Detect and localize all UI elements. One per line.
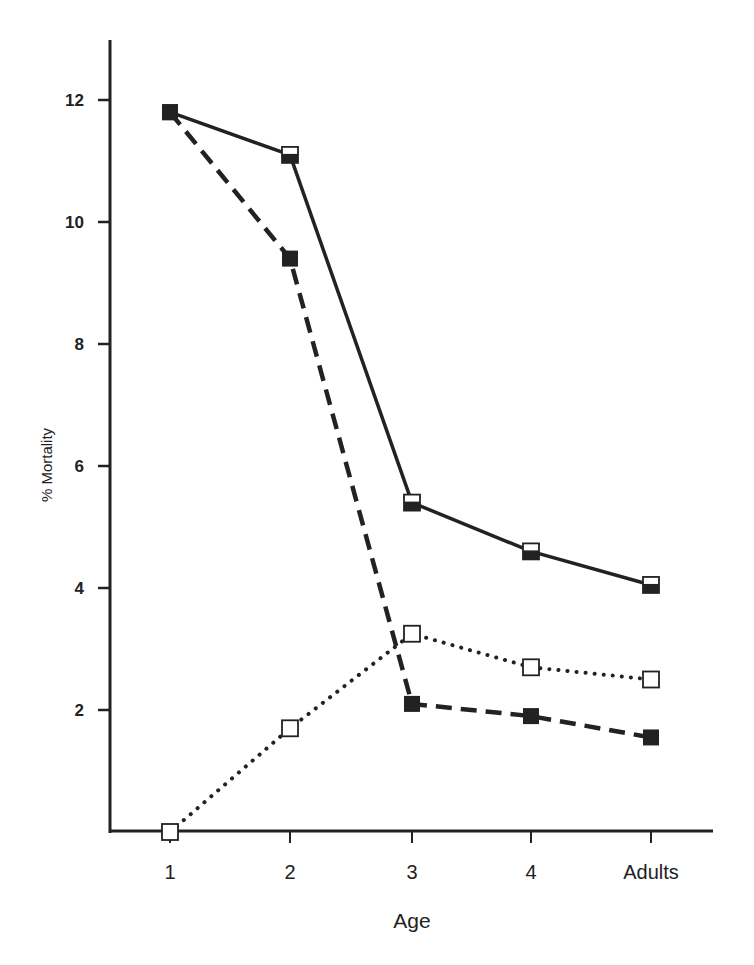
x-tick-label: Adults <box>623 861 679 883</box>
marker-half-fill <box>404 502 420 511</box>
x-tick-label: 4 <box>525 861 536 883</box>
marker-half-fill <box>282 154 298 163</box>
marker-open-square <box>523 659 539 675</box>
y-tick-label: 8 <box>75 335 84 354</box>
y-tick-label: 4 <box>75 579 85 598</box>
marker-open-square <box>404 626 420 642</box>
x-tick-label: 2 <box>284 861 295 883</box>
marker-half-fill <box>523 550 539 559</box>
marker-half-fill <box>643 584 659 593</box>
y-tick-label: 10 <box>65 213 84 232</box>
series-line-solid <box>170 112 651 585</box>
x-tick-label: 1 <box>164 861 175 883</box>
chart-canvas: 246810121234Adults Age % Mortality <box>0 0 754 965</box>
y-axis-title: % Mortality <box>38 427 55 502</box>
marker-open-square <box>282 720 298 736</box>
marker-open-square <box>643 672 659 688</box>
y-tick-label: 2 <box>75 701 84 720</box>
marker-filled-square <box>523 708 539 724</box>
marker-open-square <box>162 824 178 840</box>
axes: 246810121234Adults <box>65 40 713 883</box>
marker-filled-square <box>643 729 659 745</box>
marker-filled-square <box>282 251 298 267</box>
series-layer <box>162 104 659 840</box>
marker-filled-square <box>162 104 178 120</box>
mortality-chart: 246810121234Adults Age % Mortality <box>0 0 754 965</box>
marker-filled-square <box>404 696 420 712</box>
y-tick-label: 6 <box>75 457 84 476</box>
x-tick-label: 3 <box>406 861 417 883</box>
y-tick-label: 12 <box>65 91 84 110</box>
series-line-dotted <box>170 634 651 832</box>
x-axis-title: Age <box>393 909 430 932</box>
series-line-dashed <box>170 112 651 737</box>
